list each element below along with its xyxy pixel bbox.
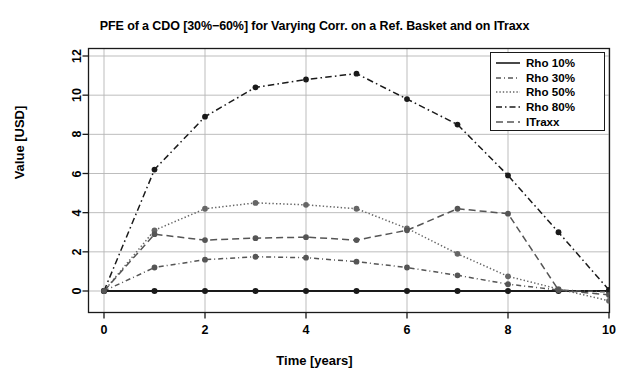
legend-line-sample-3 bbox=[495, 100, 521, 114]
data-point bbox=[202, 206, 208, 212]
data-point bbox=[455, 251, 461, 257]
data-point bbox=[303, 77, 309, 83]
data-point bbox=[303, 255, 309, 261]
data-point bbox=[354, 206, 360, 212]
data-point bbox=[253, 254, 259, 260]
data-point bbox=[556, 229, 562, 235]
data-point bbox=[505, 281, 511, 287]
legend-item[interactable]: ITraxx bbox=[495, 114, 600, 129]
legend-label: Rho 30% bbox=[526, 71, 575, 85]
data-point bbox=[152, 288, 158, 294]
legend-line-sample-4 bbox=[495, 115, 521, 129]
data-point bbox=[354, 71, 360, 77]
data-point bbox=[303, 234, 309, 240]
y-tick-label: 10 bbox=[69, 80, 85, 110]
y-tick-label: 2 bbox=[69, 237, 85, 267]
y-tick-label: 12 bbox=[69, 41, 85, 71]
data-point bbox=[505, 211, 511, 217]
data-point bbox=[505, 288, 511, 294]
y-tick-label: 0 bbox=[69, 276, 85, 306]
data-point bbox=[152, 265, 158, 271]
y-tick-label: 6 bbox=[69, 159, 85, 189]
y-axis-label: Value [USD] bbox=[12, 83, 27, 203]
data-point bbox=[505, 273, 511, 279]
legend-item[interactable]: Rho 30% bbox=[495, 71, 600, 86]
x-tick-label: 6 bbox=[387, 323, 427, 337]
data-point bbox=[152, 231, 158, 237]
data-point bbox=[152, 167, 158, 173]
data-point bbox=[505, 173, 511, 179]
legend-label: ITraxx bbox=[526, 115, 560, 129]
legend-label: Rho 50% bbox=[526, 85, 575, 99]
legend-item[interactable]: Rho 80% bbox=[495, 100, 600, 115]
data-point bbox=[253, 288, 259, 294]
data-point bbox=[202, 288, 208, 294]
data-point bbox=[354, 259, 360, 265]
data-point bbox=[455, 272, 461, 278]
legend-line-sample-2 bbox=[495, 85, 521, 99]
x-tick-label: 2 bbox=[185, 323, 225, 337]
data-point bbox=[354, 288, 360, 294]
data-point bbox=[455, 206, 461, 212]
legend-item[interactable]: Rho 50% bbox=[495, 85, 600, 100]
legend-line-sample-1 bbox=[495, 71, 521, 85]
data-point bbox=[354, 237, 360, 243]
data-point bbox=[202, 237, 208, 243]
x-tick-label: 0 bbox=[84, 323, 124, 337]
x-tick-label: 8 bbox=[488, 323, 528, 337]
legend-item[interactable]: Rho 10% bbox=[495, 56, 600, 71]
x-tick-label: 4 bbox=[286, 323, 326, 337]
data-point bbox=[455, 122, 461, 128]
data-point bbox=[253, 235, 259, 241]
data-point bbox=[253, 84, 259, 90]
chart-figure: PFE of a CDO [30%−60%] for Varying Corr.… bbox=[0, 0, 629, 390]
data-point bbox=[101, 288, 107, 294]
data-point bbox=[556, 287, 562, 293]
data-point bbox=[455, 288, 461, 294]
chart-title: PFE of a CDO [30%−60%] for Varying Corr.… bbox=[0, 19, 629, 33]
legend-label: Rho 10% bbox=[526, 56, 575, 70]
data-point bbox=[404, 288, 410, 294]
data-point bbox=[606, 298, 612, 304]
data-point bbox=[404, 265, 410, 271]
legend-label: Rho 80% bbox=[526, 100, 575, 114]
data-point bbox=[202, 257, 208, 263]
data-point bbox=[606, 292, 612, 298]
x-tick-label: 10 bbox=[589, 323, 629, 337]
legend-line-sample-0 bbox=[495, 56, 521, 70]
chart-legend: Rho 10% Rho 30% Rho 50% Rho 80% ITraxx bbox=[490, 52, 605, 131]
data-point bbox=[303, 288, 309, 294]
data-point bbox=[202, 114, 208, 120]
x-axis-label: Time [years] bbox=[0, 353, 629, 368]
data-point bbox=[303, 202, 309, 208]
data-point bbox=[404, 227, 410, 233]
series-0 bbox=[101, 288, 612, 294]
y-tick-label: 8 bbox=[69, 119, 85, 149]
data-point bbox=[404, 96, 410, 102]
y-tick-label: 4 bbox=[69, 198, 85, 228]
data-point bbox=[253, 200, 259, 206]
